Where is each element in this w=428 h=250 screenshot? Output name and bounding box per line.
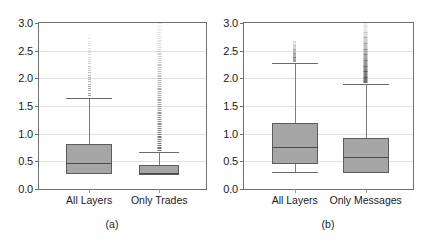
outlier-point xyxy=(364,60,368,61)
outlier-point xyxy=(157,65,161,66)
y-axis-tick-label: 2.5 xyxy=(223,45,238,57)
outlier-point xyxy=(157,54,161,55)
outlier-point xyxy=(157,102,161,103)
outlier-point xyxy=(157,38,161,39)
outlier-point xyxy=(364,43,368,44)
gridline xyxy=(39,161,206,162)
outlier-point xyxy=(88,90,91,91)
outlier-point xyxy=(157,36,161,37)
gridline xyxy=(39,106,206,107)
outlier-point xyxy=(157,62,161,63)
outlier-point xyxy=(157,43,161,44)
outlier-point xyxy=(88,77,91,78)
outlier-point xyxy=(364,64,368,65)
median-line xyxy=(66,163,112,164)
outlier-point xyxy=(157,23,161,24)
outlier-point xyxy=(157,73,161,74)
panel-a-caption: (a) xyxy=(106,218,119,230)
y-axis-tick xyxy=(35,78,39,79)
outlier-point xyxy=(157,91,161,92)
outlier-point xyxy=(157,49,161,50)
x-axis-tick xyxy=(89,189,90,193)
box-iqr xyxy=(343,138,389,174)
gridline xyxy=(39,78,206,79)
panel-b: 0.00.51.01.52.02.53.0All LayersOnly Mess… xyxy=(214,0,428,250)
gridline xyxy=(39,51,206,52)
outlier-point xyxy=(364,40,368,41)
x-axis-tick-label: All Layers xyxy=(272,194,318,206)
outlier-point xyxy=(157,56,161,57)
outlier-point xyxy=(157,148,161,149)
outlier-point xyxy=(157,128,161,129)
outlier-point xyxy=(157,143,161,144)
outlier-point xyxy=(364,68,368,69)
outlier-point xyxy=(157,86,161,87)
outlier-point xyxy=(157,110,161,111)
outlier-points xyxy=(292,41,297,61)
outlier-point xyxy=(157,100,161,101)
outlier-point xyxy=(88,61,91,62)
y-axis-tick xyxy=(240,189,244,190)
panel-a-axes: 0.00.51.01.52.02.53.0All LayersOnly Trad… xyxy=(38,22,207,190)
outlier-point xyxy=(157,106,161,107)
outlier-point xyxy=(88,75,91,76)
outlier-point xyxy=(157,150,161,151)
outlier-point xyxy=(364,36,368,37)
outlier-point xyxy=(157,95,161,96)
outlier-point xyxy=(88,59,91,60)
outlier-point xyxy=(157,88,161,89)
median-line xyxy=(139,173,179,174)
outlier-point xyxy=(364,23,368,24)
y-axis-tick xyxy=(240,23,244,24)
outlier-point xyxy=(364,49,368,50)
outlier-point xyxy=(157,113,161,114)
median-line xyxy=(272,147,318,148)
gridline xyxy=(244,78,413,79)
outlier-point xyxy=(157,82,161,83)
outlier-point xyxy=(157,47,161,48)
y-axis-tick-label: 3.0 xyxy=(223,17,238,29)
outlier-point xyxy=(157,124,161,125)
outlier-point xyxy=(364,38,368,39)
outlier-point xyxy=(157,119,161,120)
outlier-point xyxy=(364,34,368,35)
outlier-point xyxy=(364,57,368,58)
y-axis-tick xyxy=(35,189,39,190)
y-axis-tick xyxy=(240,106,244,107)
y-axis-tick-label: 3.0 xyxy=(18,17,33,29)
outlier-point xyxy=(88,50,91,51)
y-axis-tick xyxy=(240,78,244,79)
outlier-point xyxy=(88,86,91,87)
outlier-point xyxy=(157,104,161,105)
outlier-point xyxy=(157,67,161,68)
outlier-point xyxy=(157,147,161,148)
outlier-point xyxy=(157,121,161,122)
x-axis-tick xyxy=(159,189,160,193)
outlier-point xyxy=(364,53,368,54)
whisker-cap-upper xyxy=(139,152,179,153)
y-axis-tick-label: 1.0 xyxy=(18,128,33,140)
outlier-point xyxy=(364,80,368,81)
gridline xyxy=(39,134,206,135)
y-axis-tick-label: 0.0 xyxy=(18,183,33,195)
gridline xyxy=(244,106,413,107)
x-axis-tick-label: All Layers xyxy=(66,194,112,206)
outlier-point xyxy=(364,44,368,45)
outlier-point xyxy=(157,76,161,77)
outlier-point xyxy=(157,136,161,137)
outlier-point xyxy=(157,27,161,28)
y-axis-tick xyxy=(240,134,244,135)
outlier-point xyxy=(364,55,368,56)
outlier-point xyxy=(364,47,368,48)
outlier-point xyxy=(88,84,91,85)
x-axis-tick xyxy=(366,189,367,193)
y-axis-tick-label: 2.0 xyxy=(223,72,238,84)
outlier-point xyxy=(88,70,91,71)
outlier-point xyxy=(88,45,91,46)
outlier-point xyxy=(157,117,161,118)
panel-a: 0.00.51.01.52.02.53.0All LayersOnly Trad… xyxy=(0,0,214,250)
box-iqr xyxy=(66,144,112,174)
whisker-cap-lower xyxy=(272,172,318,173)
outlier-point xyxy=(364,78,368,79)
outlier-point xyxy=(88,52,91,53)
